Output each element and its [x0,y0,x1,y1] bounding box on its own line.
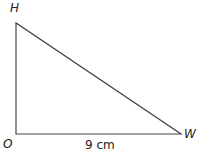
side-label-ow: 9 cm [85,139,115,151]
triangle-HOW [16,23,181,134]
vertex-label-h: H [10,2,19,14]
triangle-figure [0,0,202,155]
vertex-label-w: W [184,128,196,140]
vertex-label-o: O [3,138,12,150]
